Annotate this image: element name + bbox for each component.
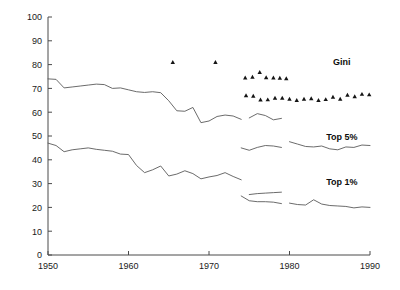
- y-axis-tick-label: 80: [32, 60, 42, 70]
- gini-triangle-marker: [243, 75, 247, 79]
- x-axis-tick-label: 1970: [199, 261, 219, 271]
- gini-triangle-marker: [302, 97, 306, 101]
- gini-triangle-marker: [213, 60, 217, 64]
- gini-triangle-marker: [271, 75, 275, 79]
- gini-triangle-marker: [280, 96, 284, 100]
- series-line-top-5-seg3: [290, 142, 371, 150]
- gini-triangle-marker: [251, 94, 255, 98]
- gini-triangle-marker: [367, 92, 371, 96]
- y-axis-tick-label: 60: [32, 108, 42, 118]
- gini-triangle-marker: [266, 97, 270, 101]
- gini-triangle-marker: [331, 95, 335, 99]
- series-line-top-1-seg0: [48, 143, 241, 180]
- gini-triangle-marker: [324, 97, 328, 101]
- gini-triangle-marker: [171, 60, 175, 64]
- series-line-top-1-seg3: [290, 200, 371, 208]
- gini-series-label: Gini: [333, 57, 351, 67]
- gini-triangle-marker: [316, 98, 320, 102]
- x-axis-tick-label: 1950: [38, 261, 58, 271]
- gini-triangle-marker: [258, 98, 262, 102]
- tick-labels-group: 0102030405060708090100195019601970198019…: [27, 12, 380, 271]
- gini-triangle-marker: [295, 98, 299, 102]
- series-annotations-group: GiniTop 5%Top 1%: [326, 57, 357, 187]
- gini-triangle-marker: [264, 75, 268, 79]
- top5-series-label: Top 5%: [326, 132, 357, 142]
- gini-triangle-marker: [278, 76, 282, 80]
- y-axis-tick-label: 40: [32, 155, 42, 165]
- gini-triangle-marker: [284, 76, 288, 80]
- gini-triangle-marker: [338, 97, 342, 101]
- top1-series-label: Top 1%: [326, 177, 357, 187]
- inequality-line-chart: 0102030405060708090100195019601970198019…: [0, 0, 400, 290]
- chart-container: 0102030405060708090100195019601970198019…: [0, 0, 400, 290]
- data-lines-group: [48, 79, 370, 208]
- series-line-top-1-seg1: [249, 192, 281, 194]
- x-axis-tick-label: 1960: [118, 261, 138, 271]
- y-axis-tick-label: 20: [32, 203, 42, 213]
- gini-triangle-marker: [345, 93, 349, 97]
- y-axis-tick-label: 100: [27, 12, 42, 22]
- y-axis-tick-label: 90: [32, 36, 42, 46]
- gini-triangle-marker: [353, 94, 357, 98]
- axes-group: [48, 17, 370, 255]
- y-axis-tick-label: 30: [32, 179, 42, 189]
- series-line-top-5-seg0: [48, 79, 241, 123]
- gini-triangle-marker: [244, 93, 248, 97]
- gini-triangle-marker: [360, 92, 364, 96]
- gini-triangle-marker: [309, 96, 313, 100]
- gini-triangle-marker: [273, 96, 277, 100]
- x-axis-tick-label: 1990: [360, 261, 380, 271]
- gini-triangle-marker: [258, 70, 262, 74]
- series-line-top-5-seg1: [249, 114, 281, 120]
- y-axis-tick-label: 10: [32, 227, 42, 237]
- series-line-top-5-seg2: [241, 146, 281, 151]
- y-axis-tick-label: 70: [32, 84, 42, 94]
- series-line-top-1-seg2: [241, 196, 281, 204]
- y-axis-tick-label: 0: [37, 250, 42, 260]
- x-axis-tick-label: 1980: [279, 261, 299, 271]
- gini-triangle-marker: [250, 75, 254, 79]
- y-axis-tick-label: 50: [32, 131, 42, 141]
- gini-triangle-marker: [287, 97, 291, 101]
